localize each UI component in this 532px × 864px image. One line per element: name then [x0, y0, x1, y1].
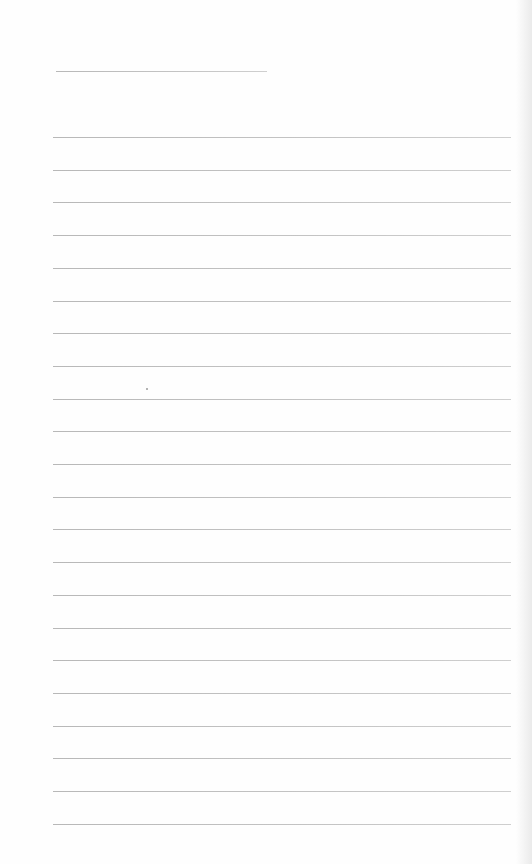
- ruled-line: [53, 824, 511, 825]
- ruled-line: [53, 660, 511, 661]
- lined-paper-page: [0, 0, 532, 864]
- page-edge-shadow: [516, 0, 532, 864]
- ruled-line: [53, 399, 511, 400]
- ruled-line: [53, 431, 511, 432]
- ruled-line: [53, 693, 511, 694]
- ruled-line: [53, 562, 511, 563]
- ruled-line: [53, 595, 511, 596]
- ruled-line: [53, 726, 511, 727]
- ruled-line: [53, 791, 511, 792]
- header-rule-line: [56, 71, 267, 72]
- ruled-line: [53, 366, 511, 367]
- ruled-line: [53, 758, 511, 759]
- paper-speck: [146, 388, 148, 390]
- ruled-line: [53, 202, 511, 203]
- ruled-line: [53, 628, 511, 629]
- ruled-line: [53, 235, 511, 236]
- ruled-line: [53, 333, 511, 334]
- ruled-line: [53, 529, 511, 530]
- ruled-line: [53, 268, 511, 269]
- ruled-line: [53, 464, 511, 465]
- ruled-line: [53, 301, 511, 302]
- ruled-line: [53, 137, 511, 138]
- ruled-line: [53, 497, 511, 498]
- ruled-line: [53, 170, 511, 171]
